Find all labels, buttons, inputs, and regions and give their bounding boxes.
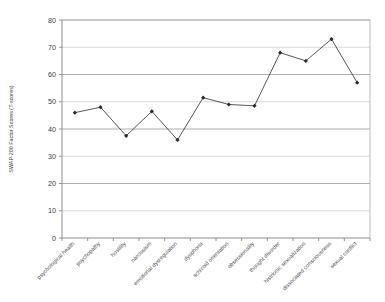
x-tick-label-2: hostility [109, 240, 127, 258]
x-tick-label-10: dissociated consciousness [281, 240, 332, 291]
y-axis-ticks: 01020304050607080 [48, 16, 62, 243]
x-tick-label-0: psychological health [36, 240, 76, 280]
x-tick-label-4: emotional dysregulation [132, 240, 178, 286]
y-tick-label-60: 60 [48, 70, 56, 79]
x-tick-label-1: psychopathy [75, 240, 102, 267]
y-tick-label-80: 80 [48, 16, 56, 25]
x-tick-label-11: sexual conflict [329, 240, 358, 269]
x-tick-label-5: dysphoria [182, 240, 204, 262]
y-tick-label-50: 50 [48, 97, 56, 106]
chart-canvas: 01020304050607080 psychological healthps… [0, 0, 385, 302]
y-tick-label-10: 10 [48, 206, 56, 215]
x-tick-label-3: narcissism [130, 240, 153, 263]
y-tick-label-40: 40 [48, 125, 56, 134]
y-tick-label-0: 0 [52, 234, 56, 243]
x-axis-labels: psychological healthpsychopathyhostility… [36, 240, 359, 292]
y-tick-label-20: 20 [48, 179, 56, 188]
y-tick-label-70: 70 [48, 43, 56, 52]
y-axis-title: SWAP-200 Factor Scores (T-scores) [8, 85, 14, 172]
swap200-factor-scores-chart: 01020304050607080 psychological healthps… [0, 0, 385, 302]
y-tick-label-30: 30 [48, 152, 56, 161]
